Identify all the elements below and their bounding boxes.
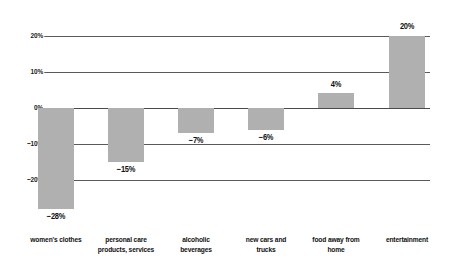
plot-area: 20% 10% 0% −10% −20% −28% −15% −7% −6% — [0, 0, 452, 267]
value-label-womens-clothes: −28% — [40, 211, 72, 221]
gridline-10 — [45, 72, 430, 73]
category-label-alcoholic-beverages: alcoholic beverages — [158, 235, 234, 255]
bar-food-away-from-home — [318, 93, 354, 108]
gridline-20 — [45, 36, 430, 37]
category-label-womens-clothes: women's clothes — [18, 235, 94, 245]
gridline-neg20 — [45, 180, 430, 181]
ytick-stub — [44, 72, 50, 73]
bar-personal-care — [108, 108, 144, 162]
ytick-stub — [44, 36, 50, 37]
category-label-food-away-from-home: food away from home — [298, 235, 374, 255]
bar-alcoholic-beverages — [178, 108, 214, 133]
bar-new-cars-trucks — [248, 108, 284, 130]
value-label-entertainment: 20% — [391, 21, 423, 31]
category-label-entertainment: entertainment — [369, 235, 445, 245]
category-label-personal-care: personal care products, services — [88, 235, 164, 255]
category-label-new-cars-trucks: new cars and trucks — [228, 235, 304, 255]
bar-entertainment — [389, 36, 425, 108]
value-label-food-away-from-home: 4% — [320, 79, 352, 89]
value-label-alcoholic-beverages: −7% — [180, 135, 212, 145]
value-label-personal-care: −15% — [110, 164, 142, 174]
gridline-zero — [45, 108, 430, 109]
gridline-neg10 — [45, 144, 430, 145]
bar-womens-clothes — [38, 108, 74, 209]
ytick-label-20: 20% — [14, 31, 43, 40]
bar-chart: 20% 10% 0% −10% −20% −28% −15% −7% −6% — [0, 0, 452, 267]
ytick-label-10: 10% — [14, 67, 43, 76]
value-label-new-cars-trucks: −6% — [250, 132, 282, 142]
